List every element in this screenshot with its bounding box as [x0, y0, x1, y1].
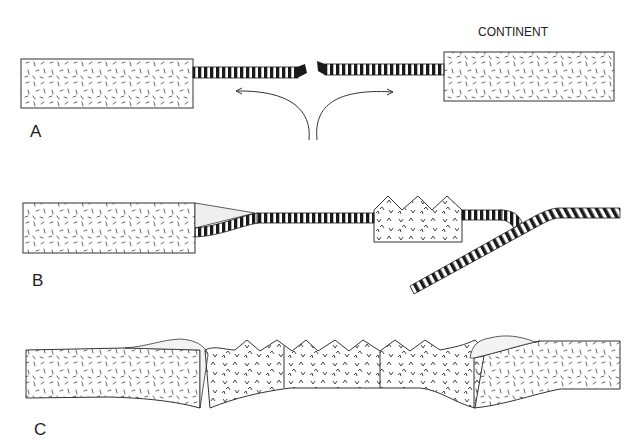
- oceanic-crust-mid-b: [257, 213, 374, 223]
- oceanic-crust-left-a: [193, 64, 307, 78]
- continent-left-b: [23, 203, 195, 253]
- continent-label: CONTINENT: [478, 25, 549, 39]
- panel-label-c: C: [34, 420, 46, 439]
- panel-a: CONTINENT A: [21, 25, 614, 141]
- continent-left-a: [21, 59, 193, 108]
- panel-label-b: B: [32, 271, 43, 290]
- panel-label-a: A: [30, 122, 42, 141]
- oceanic-crust-right-a: [317, 61, 444, 75]
- continent-right-a: [444, 52, 614, 101]
- continent-left-c: [26, 348, 200, 408]
- divergence-arrows: [236, 88, 393, 140]
- tectonic-diagram: CONTINENT A B: [0, 0, 637, 443]
- panel-c: C: [26, 336, 620, 439]
- accreted-arc-c: [205, 340, 485, 408]
- panel-b: B: [23, 196, 620, 294]
- oceanic-crust-right-b: [462, 210, 502, 220]
- island-arc-b: [374, 196, 462, 242]
